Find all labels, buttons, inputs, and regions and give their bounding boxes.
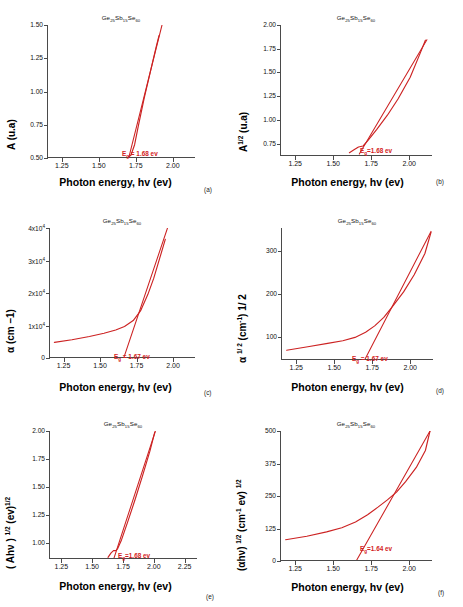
y-tick-label: 200	[251, 290, 277, 297]
x-axis-label: Photon energy, hv (ev)	[232, 581, 463, 593]
x-tick-mark	[410, 360, 411, 364]
y-tick-label: 0.75	[250, 140, 276, 147]
curve-layer	[48, 25, 195, 157]
x-tick-mark	[62, 158, 63, 162]
y-tick-mark	[46, 515, 50, 516]
y-tick-label: 0	[17, 354, 45, 361]
y-tick-mark	[46, 261, 50, 262]
y-tick-label: 500	[252, 427, 276, 434]
y-tick-label: 1.25	[19, 511, 45, 518]
panel-letter: (e)	[206, 593, 214, 600]
series-tauc-indirect	[286, 431, 430, 540]
x-tick-label: 1.50	[83, 162, 115, 169]
y-tick-label: 1x104	[17, 322, 45, 330]
y-axis-label: (αhν) 1/2 (cm-1 ev) 1/2	[235, 479, 247, 571]
y-axis-label: A (u.a)	[6, 119, 17, 150]
x-tick-label: 1.25	[279, 565, 311, 572]
bandgap-annotation: Eg=1.64 ev	[360, 545, 392, 554]
figure-panel-grid: Ge25Sb15Se600.500.751.001.251.501.251.50…	[0, 0, 463, 607]
plot-area	[281, 228, 433, 360]
series-tauc-extrapolation	[365, 231, 431, 359]
x-tick-label: 1.50	[76, 563, 108, 570]
y-tick-mark	[277, 25, 281, 26]
x-tick-label: 1.75	[121, 362, 153, 369]
panel-letter: (a)	[204, 186, 212, 193]
y-axis-label: α 1/ 2 (cm-1) 1/ 2	[236, 294, 248, 363]
x-tick-mark	[100, 358, 101, 362]
x-tick-mark	[92, 559, 93, 563]
panel-letter: (d)	[436, 387, 444, 394]
x-tick-mark	[409, 561, 410, 565]
y-tick-mark	[277, 496, 281, 497]
y-tick-label: 1.00	[250, 116, 276, 123]
panel-title: Ge25Sb15Se60	[47, 14, 195, 23]
x-tick-label: 1.50	[317, 160, 349, 167]
x-tick-mark	[371, 561, 372, 565]
y-tick-mark	[278, 294, 282, 295]
y-tick-label: 1.75	[250, 45, 276, 52]
panel-title: Ge25Sb15Se60	[280, 420, 432, 429]
series-absorbance	[118, 36, 159, 157]
plot-area	[280, 431, 432, 561]
y-axis-label: ( Ahν ) 1/2 (ev)1/2	[4, 497, 16, 569]
y-tick-mark	[278, 251, 282, 252]
y-tick-label: 1.00	[19, 539, 45, 546]
y-tick-mark	[44, 58, 48, 59]
series-tauc-extrapolation	[114, 431, 155, 558]
y-tick-mark	[44, 158, 48, 159]
y-tick-mark	[277, 72, 281, 73]
panel-letter: (f)	[438, 589, 444, 596]
x-tick-label: 1.75	[120, 162, 152, 169]
y-tick-label: 1.25	[250, 92, 276, 99]
x-tick-label: 2.00	[157, 362, 189, 369]
bandgap-annotation: Eg = 1.67 ev	[352, 355, 388, 364]
series-absorption-coefficient	[54, 239, 165, 342]
x-tick-label: 1.75	[356, 364, 388, 371]
y-tick-label: 2.00	[250, 21, 276, 28]
y-tick-mark	[277, 144, 281, 145]
curve-layer	[281, 25, 432, 155]
bandgap-annotation: Eg=1.68 ev	[118, 552, 150, 561]
series-tauc-extrapolation	[124, 228, 168, 357]
x-tick-label: 1.25	[46, 162, 78, 169]
x-tick-label: 1.75	[355, 565, 387, 572]
y-tick-mark	[278, 337, 282, 338]
x-tick-label: 1.50	[318, 364, 350, 371]
x-tick-label: 2.00	[157, 162, 189, 169]
panel-letter: (b)	[436, 178, 444, 185]
y-tick-mark	[277, 561, 281, 562]
x-tick-label: 1.75	[107, 563, 139, 570]
x-tick-mark	[185, 559, 186, 563]
y-tick-mark	[277, 464, 281, 465]
x-tick-mark	[334, 360, 335, 364]
y-tick-mark	[46, 293, 50, 294]
x-tick-label: 1.25	[48, 362, 80, 369]
y-tick-label: 1.25	[17, 54, 43, 61]
x-tick-mark	[61, 559, 62, 563]
y-tick-label: 1.50	[17, 21, 43, 28]
curve-layer	[50, 431, 197, 558]
series-tauc-direct	[108, 432, 155, 557]
y-tick-label: 100	[251, 333, 277, 340]
y-tick-label: 1.00	[17, 88, 43, 95]
y-tick-mark	[44, 25, 48, 26]
plot-area	[49, 431, 197, 559]
curve-layer	[50, 228, 195, 357]
x-tick-label: 1.25	[45, 563, 77, 570]
y-tick-label: 375	[252, 460, 276, 467]
panel-title: Ge25Sb15Se60	[49, 217, 195, 226]
x-tick-mark	[409, 156, 410, 160]
x-tick-mark	[295, 156, 296, 160]
x-tick-mark	[333, 156, 334, 160]
y-tick-mark	[46, 543, 50, 544]
plot-area	[49, 228, 195, 358]
x-tick-label: 2.00	[138, 563, 170, 570]
series-sqrt-absorbance	[349, 40, 425, 153]
chart-panel-e: Ge25Sb15Se601.001.251.501.752.001.251.50…	[0, 405, 231, 607]
x-axis-label: Photon energy, hv (ev)	[232, 381, 463, 393]
x-axis-label: Photon energy, hv (ev)	[232, 176, 463, 188]
y-tick-mark	[44, 125, 48, 126]
y-tick-mark	[46, 459, 50, 460]
y-tick-mark	[46, 358, 50, 359]
x-tick-label: 2.25	[169, 563, 201, 570]
